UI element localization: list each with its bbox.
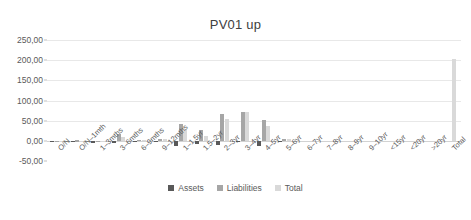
- bar: [50, 141, 54, 142]
- bar: [96, 141, 100, 142]
- y-axis-tick-label: 50,00: [0, 116, 43, 126]
- legend-item[interactable]: Total: [275, 183, 303, 193]
- legend-label: Assets: [178, 183, 204, 193]
- y-axis-tick-label: 100,00: [0, 96, 43, 106]
- bar: [452, 59, 456, 141]
- legend-swatch-icon: [168, 185, 174, 191]
- bar: [282, 139, 286, 141]
- legend-label: Liabilities: [227, 183, 262, 193]
- bar: [55, 141, 59, 142]
- chart-container: PV01 up -50,000,0050,00100,00150,00200,0…: [0, 0, 471, 220]
- y-axis-tick-label: 250,00: [0, 35, 43, 45]
- chart-legend: AssetsLiabilitiesTotal: [0, 183, 471, 193]
- y-axis-tick-label: 150,00: [0, 75, 43, 85]
- y-axis-tick-label: 200,00: [0, 55, 43, 65]
- legend-swatch-icon: [217, 185, 223, 191]
- legend-item[interactable]: Liabilities: [217, 183, 262, 193]
- chart-title: PV01 up: [0, 17, 471, 32]
- y-axis-tick-label: -50,00: [0, 156, 43, 166]
- bar: [225, 119, 229, 141]
- bar: [75, 140, 79, 141]
- y-axis-tick-mark: [44, 161, 47, 162]
- bar: [245, 112, 249, 141]
- bar: [241, 112, 245, 141]
- bar: [137, 140, 141, 141]
- legend-swatch-icon: [275, 185, 281, 191]
- legend-item[interactable]: Assets: [168, 183, 204, 193]
- legend-label: Total: [285, 183, 303, 193]
- y-axis-tick-label: 0,00: [0, 136, 43, 146]
